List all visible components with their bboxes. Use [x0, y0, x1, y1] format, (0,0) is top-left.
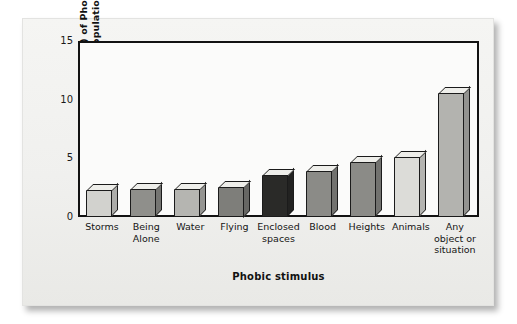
bar-front-face	[394, 157, 420, 217]
x-tick-label-any-object-or-situation: Anyobject orsituation	[427, 221, 483, 256]
bar-series	[80, 41, 477, 217]
y-tick-label-0: 0	[47, 211, 73, 222]
bar-being-alone[interactable]	[130, 41, 163, 217]
x-tick-label-line: Alone	[118, 233, 174, 245]
bar-side-face	[463, 85, 470, 217]
x-tick-label-line: situation	[427, 244, 483, 256]
bar-side-face	[375, 155, 382, 217]
y-tick-label-15: 15	[47, 35, 73, 46]
bar-front-face	[130, 189, 156, 217]
y-tick-label-5: 5	[47, 152, 73, 163]
bar-front-face	[438, 93, 464, 217]
y-tick-label-10: 10	[47, 94, 73, 105]
x-tick-label-line: spaces	[250, 233, 306, 245]
bar-front-face	[306, 171, 332, 217]
bar-storms[interactable]	[86, 41, 119, 217]
bar-heights[interactable]	[350, 41, 383, 217]
bar-front-face	[218, 187, 244, 218]
x-tick-label-line: Any	[427, 221, 483, 233]
bar-flying[interactable]	[218, 41, 251, 217]
x-axis-title: Phobic stimulus	[78, 271, 479, 282]
bar-side-face	[419, 150, 426, 217]
bar-front-face	[174, 189, 200, 217]
bar-blood[interactable]	[306, 41, 339, 217]
bar-water[interactable]	[174, 41, 207, 217]
bar-enclosed-spaces[interactable]	[262, 41, 295, 217]
bar-front-face	[350, 162, 376, 217]
figure-card: Prevalence (%) of Phobia in general popu…	[22, 18, 494, 306]
bar-animals[interactable]	[394, 41, 427, 217]
x-tick-label-line: object or	[427, 233, 483, 245]
bar-any-object-or-situation[interactable]	[438, 41, 471, 217]
bar-front-face	[86, 190, 112, 217]
bar-front-face	[262, 175, 288, 217]
bar-side-face	[331, 164, 338, 217]
